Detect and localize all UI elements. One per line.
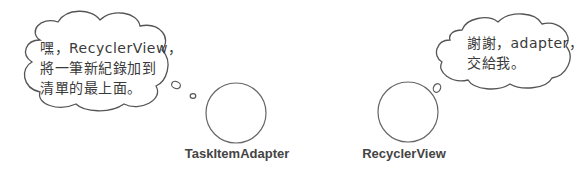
thought-dot-left-2 <box>190 94 196 99</box>
actor-circle-recyclerview <box>378 82 438 142</box>
right-bubble-line: 交給我。 <box>467 53 582 73</box>
thought-dot-right-1 <box>432 82 442 93</box>
actor-circle-taskitemadapter <box>206 83 266 143</box>
left-bubble-line: 嘿，RecyclerView， <box>40 38 182 58</box>
left-bubble-line: 將一筆新紀錄加到 <box>40 58 182 78</box>
right-bubble-text: 謝謝，adapter， 交給我。 <box>467 33 582 73</box>
actor-label-recyclerview: RecyclerView <box>362 146 446 161</box>
left-bubble-line: 清單的最上面。 <box>40 78 182 98</box>
left-bubble-text: 嘿，RecyclerView， 將一筆新紀錄加到 清單的最上面。 <box>40 38 182 98</box>
right-bubble-line: 謝謝，adapter， <box>467 33 582 53</box>
actor-label-taskitemadapter: TaskItemAdapter <box>185 146 290 161</box>
